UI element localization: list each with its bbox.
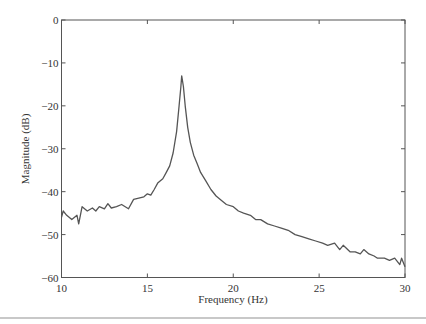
magnitude-chart: 1015202530 0−10−20−30−40−50−60 Frequency… [0, 0, 426, 324]
y-tick-label: −10 [41, 57, 59, 69]
y-tick-label: −20 [41, 100, 59, 112]
plot-area: 1015202530 0−10−20−30−40−50−60 [41, 14, 411, 294]
x-tick-label: 15 [142, 282, 154, 294]
y-tick-label: 0 [53, 14, 59, 26]
y-tick-label: −60 [41, 272, 59, 284]
y-tick-label: −50 [41, 229, 59, 241]
axes-frame [62, 20, 406, 278]
x-tick-label: 30 [400, 282, 412, 294]
divider-line [0, 317, 426, 319]
y-tick-label: −30 [41, 143, 59, 155]
y-axis-label: Magnitude (dB) [19, 113, 32, 184]
x-tick-label: 20 [228, 282, 240, 294]
y-tick-label: −40 [41, 186, 59, 198]
x-axis-label: Frequency (Hz) [198, 293, 268, 306]
magnitude-line [62, 76, 406, 267]
y-axis-ticks: 0−10−20−30−40−50−60 [41, 14, 405, 284]
x-tick-label: 25 [314, 282, 326, 294]
